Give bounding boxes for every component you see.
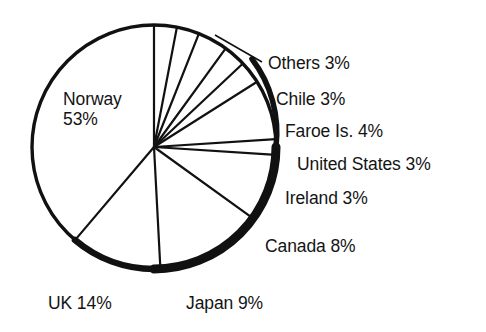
slice-label-ireland: Ireland 3%	[285, 188, 368, 208]
slice-label-canada: Canada 8%	[265, 236, 356, 256]
slice-label-others: Others 3%	[268, 53, 350, 73]
pie-chart-figure: Norway 53% Others 3% Chile 3% Faroe Is. …	[0, 0, 486, 332]
slice-label-norway-name: Norway	[63, 89, 122, 109]
slice-label-norway: Norway 53%	[63, 89, 122, 129]
slice-label-faroe-is: Faroe Is. 4%	[285, 121, 383, 141]
slice-label-united-states: United States 3%	[297, 154, 431, 174]
slice-label-uk: UK 14%	[48, 293, 112, 313]
slice-label-japan: Japan 9%	[186, 293, 263, 313]
slice-label-norway-value: 53%	[63, 109, 122, 129]
slice-label-chile: Chile 3%	[276, 89, 345, 109]
